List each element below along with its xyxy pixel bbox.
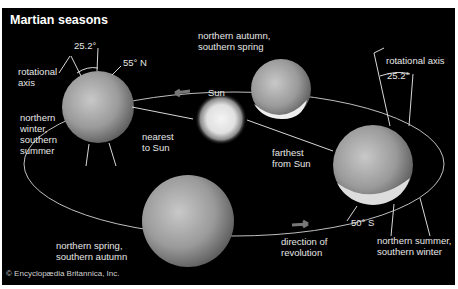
arrow-left-icon bbox=[175, 90, 190, 96]
label-tilt-left: 25.2° bbox=[74, 40, 96, 51]
label-nearest-to-sun: nearest to Sun bbox=[142, 131, 174, 153]
label-farthest-from-sun: farthest from Sun bbox=[272, 147, 311, 169]
label-northern-spring: northern spring, southern autumn bbox=[56, 240, 127, 262]
label-sun: Sun bbox=[208, 87, 225, 98]
label-latitude-north: 55° N bbox=[123, 57, 147, 68]
planet-autumn bbox=[251, 59, 311, 119]
sun bbox=[195, 93, 247, 145]
label-northern-summer: northern summer, southern winter bbox=[377, 235, 451, 257]
label-tilt-right: 25.2° bbox=[387, 70, 409, 81]
diagram-panel: Martian seasons rotational axis 25.2° 55… bbox=[2, 8, 455, 285]
label-latitude-south: 50° S bbox=[351, 217, 374, 228]
planet-summer bbox=[333, 125, 413, 205]
label-direction-of-revolution: direction of revolution bbox=[281, 236, 327, 258]
label-rotational-axis-left: rotational axis bbox=[18, 66, 57, 88]
planet-spring bbox=[142, 175, 234, 267]
diagram-title: Martian seasons bbox=[10, 13, 108, 27]
label-rotational-axis-right: rotational axis bbox=[386, 55, 445, 66]
label-northern-autumn: northern autumn, southern spring bbox=[198, 30, 270, 52]
arrow-right-icon bbox=[292, 221, 308, 227]
planet-winter bbox=[62, 71, 134, 143]
copyright: © Encyclopædia Britannica, Inc. bbox=[6, 269, 120, 278]
label-northern-winter: northern winter, southern summer bbox=[20, 112, 57, 156]
